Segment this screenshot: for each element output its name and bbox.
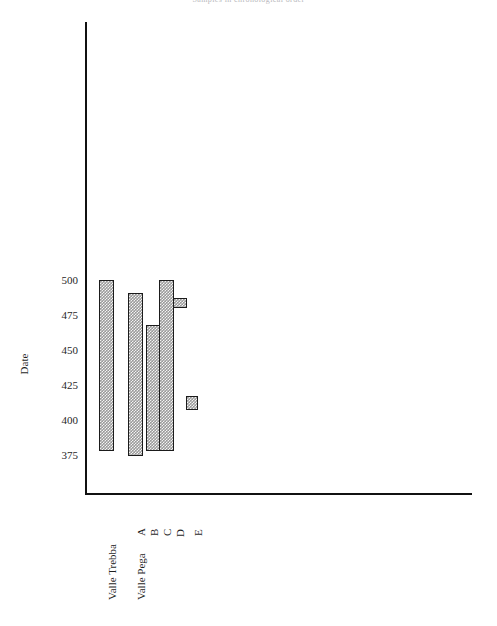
bar-a[interactable] (128, 293, 143, 457)
x-tick-label-e: E (192, 529, 204, 536)
chart-root: Samples in chronological order Date 500 … (0, 0, 497, 626)
y-tick-label-375: 375 (36, 449, 78, 461)
x-tick-label-b: B (148, 529, 160, 536)
bar-b[interactable] (146, 325, 160, 451)
x-tick-label-a: A (135, 528, 147, 536)
x-tick-label-d: D (174, 529, 186, 537)
y-tick-label-450: 450 (36, 344, 78, 356)
y-tick-label-425: 425 (36, 379, 78, 391)
x-tick-label-valle-pega: Valle Pega (135, 553, 147, 600)
bar-e[interactable] (186, 396, 198, 410)
y-tick-label-475: 475 (36, 309, 78, 321)
y-tick-label-400: 400 (36, 414, 78, 426)
y-tick-label-500: 500 (36, 274, 78, 286)
chart-title: Samples in chronological order (0, 0, 497, 4)
x-tick-label-valle-trebba: Valle Trebba (106, 544, 118, 600)
y-axis-title: Date (18, 334, 30, 394)
bar-d[interactable] (173, 298, 187, 308)
plot-area (85, 22, 472, 495)
bar-c[interactable] (159, 280, 174, 451)
bar-valle-trebba[interactable] (99, 280, 114, 451)
x-tick-label-c: C (161, 529, 173, 536)
